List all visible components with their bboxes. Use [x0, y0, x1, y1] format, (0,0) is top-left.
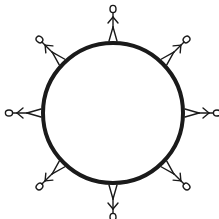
- stick-figure: [108, 185, 118, 219]
- stick-figure: [33, 33, 65, 65]
- stick-figures-group: [5, 5, 219, 219]
- stick-figure: [5, 108, 41, 118]
- diagram-canvas: [0, 0, 219, 219]
- stick-figure: [185, 108, 219, 118]
- stick-figure: [160, 33, 192, 65]
- stick-figure: [160, 160, 192, 192]
- stick-figure: [108, 5, 118, 41]
- globe-circle: [43, 43, 183, 183]
- globe-diagram: [0, 0, 219, 219]
- stick-figure: [33, 160, 65, 192]
